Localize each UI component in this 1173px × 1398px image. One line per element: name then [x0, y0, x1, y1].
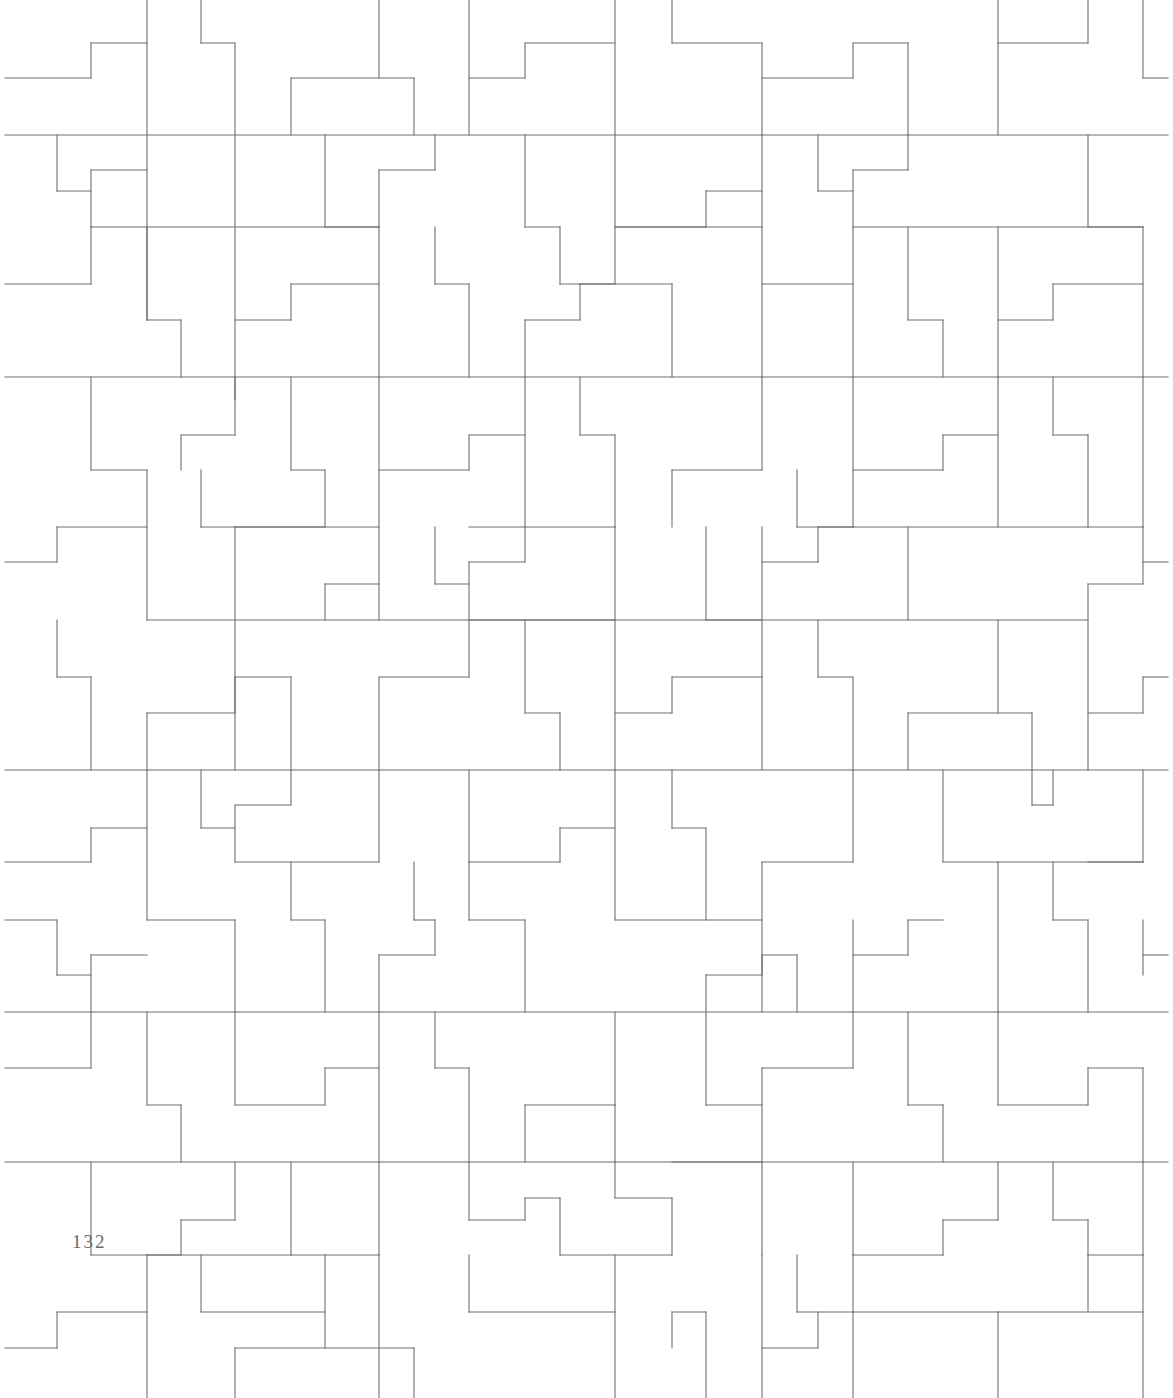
tiling-figure: [0, 0, 1173, 1398]
page-number: 132: [72, 1231, 107, 1253]
